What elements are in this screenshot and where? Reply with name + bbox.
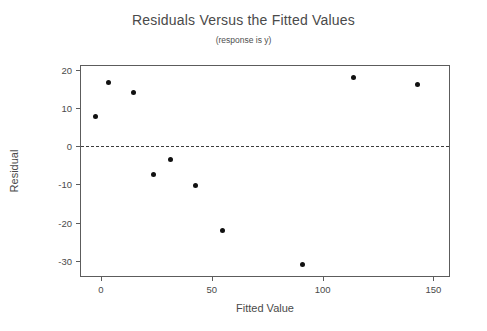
data-point — [193, 183, 198, 188]
y-axis-tick-label: -30 — [58, 255, 72, 266]
chart-subtitle: (response is y) — [0, 35, 487, 45]
zero-reference-line — [81, 146, 449, 147]
chart-title: Residuals Versus the Fitted Values — [0, 12, 487, 28]
y-axis-tick — [76, 146, 81, 147]
x-axis-tick — [212, 276, 213, 281]
y-axis-tick — [76, 70, 81, 71]
x-axis-tick — [101, 276, 102, 281]
y-axis-label: Residual — [8, 150, 20, 193]
y-axis-tick — [76, 184, 81, 185]
y-axis-tick-label: 20 — [61, 64, 72, 75]
y-axis-tick-label: 10 — [61, 103, 72, 114]
data-point — [220, 228, 225, 233]
data-point — [351, 75, 356, 80]
data-point — [131, 90, 136, 95]
data-point — [415, 82, 420, 87]
y-axis-tick — [76, 223, 81, 224]
data-point — [168, 157, 173, 162]
plot-area: 20100-10-20-30050100150 — [80, 65, 450, 277]
x-axis-tick-label: 150 — [426, 284, 442, 295]
data-point — [106, 80, 111, 85]
y-axis-tick-label: 0 — [67, 141, 72, 152]
x-axis-label: Fitted Value — [80, 302, 450, 314]
y-axis-tick — [76, 261, 81, 262]
y-axis-tick — [76, 108, 81, 109]
x-axis-tick-label: 100 — [315, 284, 331, 295]
data-point — [300, 262, 305, 267]
x-axis-tick-label: 0 — [98, 284, 103, 295]
data-point — [151, 172, 156, 177]
x-axis-tick — [433, 276, 434, 281]
x-axis-tick-label: 50 — [206, 284, 217, 295]
data-point — [93, 114, 98, 119]
y-axis-tick-label: -20 — [58, 217, 72, 228]
y-axis-tick-label: -10 — [58, 179, 72, 190]
x-axis-tick — [323, 276, 324, 281]
residual-plot: Residuals Versus the Fitted Values (resp… — [0, 0, 487, 331]
